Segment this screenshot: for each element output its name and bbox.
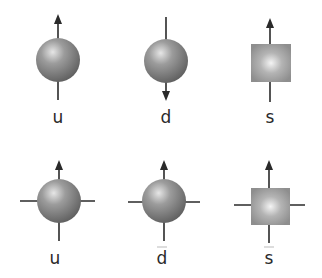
anti-s-quark: s bbox=[234, 160, 305, 268]
label-d: d bbox=[161, 107, 172, 127]
arrow-down-icon bbox=[162, 91, 170, 101]
square-icon bbox=[251, 44, 291, 82]
arrow-up-icon bbox=[54, 14, 62, 24]
label-anti-s: s bbox=[265, 248, 274, 268]
anti-u-quark: u bbox=[20, 160, 95, 268]
arrow-up-icon bbox=[265, 160, 273, 170]
anti-d-quark: d bbox=[128, 160, 200, 268]
sphere-icon bbox=[142, 179, 186, 223]
u-quark: u bbox=[36, 14, 80, 127]
label-anti-u: u bbox=[50, 248, 61, 268]
arrow-up-icon bbox=[266, 18, 274, 28]
sphere-icon bbox=[37, 179, 81, 223]
arrow-up-icon bbox=[160, 160, 168, 170]
square-icon bbox=[251, 188, 290, 225]
arrow-up-icon bbox=[55, 160, 63, 170]
s-quark: s bbox=[251, 18, 291, 127]
label-anti-d: d bbox=[157, 248, 168, 268]
sphere-icon bbox=[36, 38, 80, 82]
label-s: s bbox=[266, 107, 275, 127]
d-quark: d bbox=[144, 17, 188, 127]
sphere-icon bbox=[144, 39, 188, 83]
quark-diagram: u d s u d s bbox=[0, 0, 322, 278]
label-u: u bbox=[53, 107, 64, 127]
